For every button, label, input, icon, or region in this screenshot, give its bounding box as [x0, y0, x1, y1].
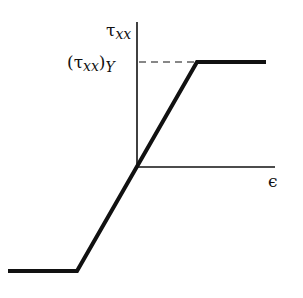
stress-strain-diagram: τxx (τxx)Y ϵ	[0, 0, 303, 298]
yield-stress-label: (τxx)Y	[67, 52, 116, 75]
x-axis-label: ϵ	[268, 171, 278, 191]
y-axis-label: τxx	[106, 20, 131, 42]
